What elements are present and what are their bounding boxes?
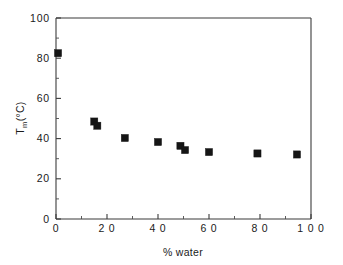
y-tick-label: 100: [30, 12, 50, 24]
data-point-marker: [154, 138, 161, 145]
x-tick-label: 2 0: [99, 222, 116, 234]
x-tick-label: 1 0 0: [297, 222, 324, 234]
y-tick-label: 40: [37, 132, 50, 144]
data-point-marker: [121, 134, 128, 141]
chart-figure: 020406080100 02 04 06 08 01 0 0 % water …: [0, 0, 343, 265]
scatter-plot-svg: 020406080100 02 04 06 08 01 0 0 % water …: [0, 0, 343, 265]
y-tick-label: 20: [37, 172, 50, 184]
x-tick-label: 4 0: [150, 222, 167, 234]
x-tick-label: 0: [53, 222, 60, 234]
y-axis-title-tail: (°C): [14, 101, 26, 121]
data-point-marker: [293, 151, 300, 158]
data-point-marker: [205, 148, 212, 155]
x-tick-label: 8 0: [252, 222, 269, 234]
data-point-marker: [254, 150, 261, 157]
data-point-marker: [54, 50, 61, 57]
chart-background: [0, 0, 343, 265]
x-axis-title: % water: [163, 246, 203, 258]
y-tick-label: 0: [43, 213, 50, 225]
y-tick-label: 60: [37, 92, 50, 104]
y-tick-label: 80: [37, 52, 50, 64]
data-point-marker: [181, 146, 188, 153]
x-tick-label: 6 0: [201, 222, 218, 234]
data-point-marker: [94, 122, 101, 129]
